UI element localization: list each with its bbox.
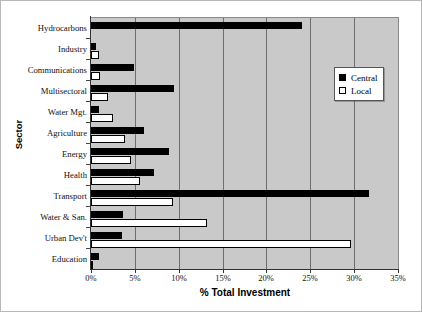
filled-square-icon [339,74,346,81]
legend-label-local: Local [351,86,372,96]
y-axis-tick [86,143,90,144]
x-axis-tick-label: 0% [71,273,111,283]
x-axis-tick-label: 10% [159,273,199,283]
x-axis-tick-label: 30% [334,273,374,283]
y-axis-tick [86,206,90,207]
legend-label-central: Central [351,73,378,83]
y-axis-line [90,16,91,270]
bar-central [91,169,154,176]
legend-item-local: Local [339,84,378,97]
y-axis-tick-label: Agriculture [9,128,87,138]
bar-central [91,190,369,197]
bar-central [91,22,302,29]
x-axis-tick-label: 35% [378,273,418,283]
bar-local [91,261,93,269]
bar-central [91,232,122,239]
y-axis-tick [86,80,90,81]
y-axis-tick-label: Hydrocarbons [9,23,87,33]
plot-area [91,17,399,270]
x-axis-tick-label: 25% [290,273,330,283]
x-axis-tick-label: 15% [203,273,243,283]
y-axis-tick-label: Transport [9,191,87,201]
bar-central [91,211,123,218]
chart-legend: Central Local [334,67,384,101]
bar-local [91,114,113,122]
y-axis-tick-label: Education [9,254,87,264]
bar-local [91,219,207,227]
x-axis-line [90,269,399,270]
bar-local [91,198,173,206]
y-axis-tick [86,38,90,39]
y-axis-tick [86,185,90,186]
y-axis-tick [86,122,90,123]
bar-central [91,64,134,71]
x-axis-tick-label: 5% [115,273,155,283]
bar-central [91,253,99,260]
bar-local [91,93,108,101]
y-axis-tick [86,59,90,60]
y-axis-tick-label: Communications [9,65,87,75]
bar-central [91,127,144,134]
bar-local [91,51,99,59]
y-axis-tick-label: Industry [9,44,87,54]
bar-local [91,177,140,185]
hollow-square-icon [339,87,346,94]
y-axis-tick-label: Multisectoral [9,86,87,96]
y-axis-tick [86,164,90,165]
gridline [135,18,136,270]
y-axis-tick-label: Energy [9,149,87,159]
bar-local [91,72,100,80]
legend-item-central: Central [339,71,378,84]
y-axis-tick-labels: HydrocarbonsIndustryCommunicationsMultis… [9,17,87,269]
y-axis-tick-label: Water & San. [9,212,87,222]
gridline [354,18,355,270]
y-axis-tick-label: Water Mgt. [9,107,87,117]
bar-central [91,85,174,92]
gridline [179,18,180,270]
bar-central [91,43,96,50]
y-axis-tick-label: Urban Dev't [9,233,87,243]
bar-local [91,135,125,143]
bar-local [91,156,131,164]
bar-central [91,148,169,155]
bar-local [91,240,351,248]
gridline [310,18,311,270]
chart-figure: Sector HydrocarbonsIndustryCommunication… [0,0,422,312]
y-axis-tick [86,248,90,249]
y-axis-tick [86,227,90,228]
y-axis-tick-label: Health [9,170,87,180]
gridline [266,18,267,270]
bar-central [91,106,99,113]
x-axis-tick-label: 20% [246,273,286,283]
x-axis-title: % Total Investment [91,287,399,298]
y-axis-tick [86,101,90,102]
gridline [223,18,224,270]
